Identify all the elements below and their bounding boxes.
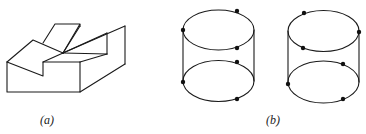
point-marker bbox=[235, 46, 239, 50]
figure-canvas bbox=[0, 0, 366, 134]
point-marker bbox=[341, 62, 345, 66]
point-marker bbox=[181, 80, 185, 84]
point-marker bbox=[235, 9, 239, 13]
point-marker bbox=[286, 82, 290, 86]
point-marker bbox=[357, 30, 361, 34]
point-marker bbox=[235, 60, 239, 64]
block-drawing bbox=[7, 24, 125, 92]
cylinder-right bbox=[286, 11, 361, 104]
panel-a-caption: (a) bbox=[40, 114, 54, 126]
point-marker bbox=[181, 28, 185, 32]
panel-b-caption: (b) bbox=[266, 114, 280, 126]
cylinder-left bbox=[181, 9, 254, 102]
point-marker bbox=[235, 97, 239, 101]
point-marker bbox=[341, 97, 345, 101]
point-marker bbox=[302, 11, 306, 15]
point-marker bbox=[301, 46, 305, 50]
